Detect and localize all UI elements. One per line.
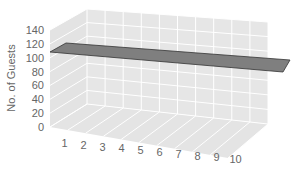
y-axis-ticks: 020406080100120140 bbox=[26, 24, 44, 133]
y-tick-label: 40 bbox=[32, 93, 44, 105]
y-tick-label: 60 bbox=[32, 79, 44, 91]
y-tick-label: 20 bbox=[32, 107, 44, 119]
x-tick-label: 8 bbox=[194, 150, 200, 162]
x-tick-label: 10 bbox=[229, 153, 241, 165]
x-tick-label: 3 bbox=[99, 141, 105, 153]
y-tick-label: 140 bbox=[26, 24, 44, 36]
x-tick-label: 1 bbox=[61, 137, 67, 149]
x-tick-label: 6 bbox=[156, 146, 162, 158]
x-tick-label: 7 bbox=[175, 148, 181, 160]
x-tick-label: 9 bbox=[213, 151, 219, 163]
x-tick-label: 4 bbox=[118, 142, 124, 154]
y-tick-label: 120 bbox=[26, 38, 44, 50]
y-tick-label: 100 bbox=[26, 52, 44, 64]
y-tick-label: 0 bbox=[38, 121, 44, 133]
y-axis-label: No. of Guests bbox=[5, 44, 17, 112]
x-tick-label: 5 bbox=[137, 144, 143, 156]
y-tick-label: 80 bbox=[32, 66, 44, 78]
guests-3d-line-chart: 020406080100120140 12345678910 No. of Gu… bbox=[0, 0, 301, 172]
x-tick-label: 2 bbox=[80, 139, 86, 151]
